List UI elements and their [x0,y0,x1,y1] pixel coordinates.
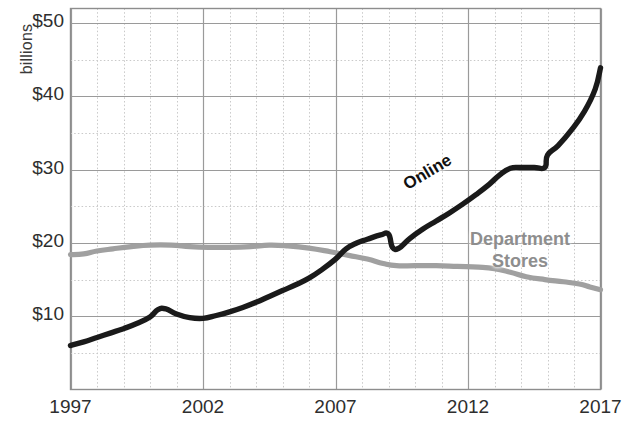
series-label-department-line2: Stores [450,250,590,272]
plot-frame [71,9,601,390]
plot-area [0,0,623,433]
grid-major [71,9,602,390]
series-label-department-stores: Department Stores [450,228,590,272]
series-label-department-line1: Department [470,229,570,249]
line-chart: billions $50 $40 $30 $20 $10 1997 2002 2… [0,0,623,433]
